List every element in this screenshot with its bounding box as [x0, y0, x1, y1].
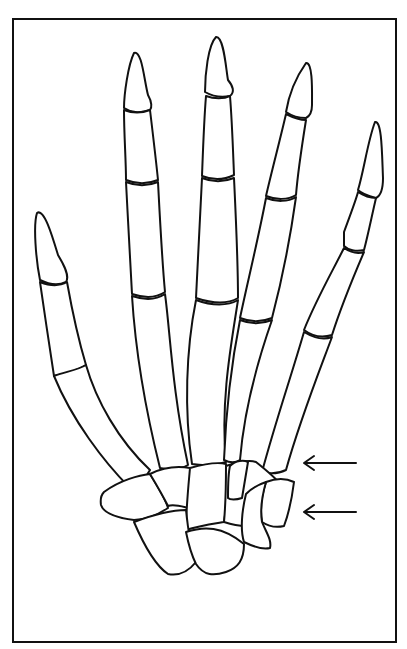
little-distal-phalanx: [358, 122, 383, 198]
middle-distal-phalanx: [205, 37, 233, 97]
index-distal-phalanx: [124, 53, 151, 112]
little-middle-phalanx: [344, 192, 376, 251]
index-proximal-phalanx: [126, 182, 165, 297]
carpal-bones: [101, 461, 294, 575]
index-metacarpal: [132, 294, 188, 469]
thumb-proximal-phalanx: [40, 282, 86, 376]
arrow-lower: [304, 505, 356, 519]
capitate: [186, 463, 227, 530]
scaphoid: [134, 510, 196, 575]
middle-proximal-phalanx: [196, 178, 238, 303]
arrow-upper: [304, 456, 356, 470]
hand-skeleton-diagram: [0, 0, 407, 649]
middle-middle-phalanx: [202, 96, 234, 179]
thumb-distal-phalanx: [35, 212, 67, 284]
ring-proximal-phalanx: [240, 197, 296, 321]
ring-middle-phalanx: [266, 114, 306, 199]
little-metacarpal: [262, 332, 332, 473]
thumb-metacarpal: [54, 365, 150, 488]
pisiform: [261, 479, 294, 527]
index-finger-bones: [124, 53, 188, 469]
little-proximal-phalanx: [304, 248, 364, 336]
index-middle-phalanx: [124, 110, 158, 183]
lunate: [186, 528, 244, 574]
ring-distal-phalanx: [286, 63, 312, 118]
